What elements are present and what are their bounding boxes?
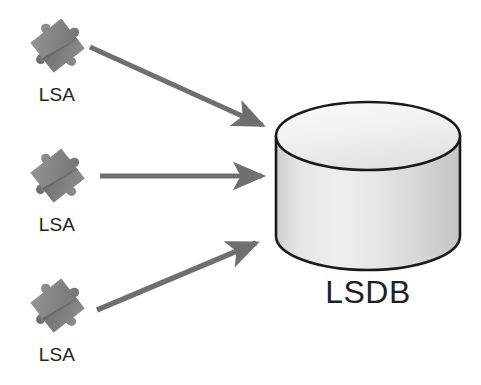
diagram-canvas: LSA LSA LSA LSDB bbox=[0, 0, 481, 385]
edge-lsa3-lsdb bbox=[97, 243, 256, 310]
lsa-label-2: LSA bbox=[12, 214, 102, 236]
lsdb-label: LSDB bbox=[268, 274, 468, 311]
lsa-label-1: LSA bbox=[12, 84, 102, 106]
lsa-node-1 bbox=[20, 10, 94, 80]
puzzle-piece-icon bbox=[20, 270, 94, 340]
lsa-node-3 bbox=[20, 270, 94, 340]
lsa-node-2 bbox=[20, 140, 94, 210]
puzzle-piece-icon bbox=[20, 10, 94, 80]
database-cylinder-icon bbox=[276, 102, 460, 270]
cylinder-top-ellipse bbox=[276, 102, 460, 170]
arrow-line-1 bbox=[90, 47, 262, 125]
lsa-label-3: LSA bbox=[12, 344, 102, 366]
puzzle-piece-icon bbox=[20, 140, 94, 210]
edge-lsa1-lsdb bbox=[90, 47, 262, 125]
arrow-line-3 bbox=[97, 243, 256, 310]
